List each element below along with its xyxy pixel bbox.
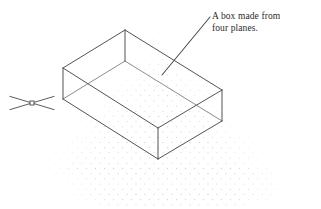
grid-dot xyxy=(194,189,195,190)
grid-dot xyxy=(189,121,190,122)
grid-dot xyxy=(176,157,177,158)
grid-dot xyxy=(104,178,105,179)
grid-dot xyxy=(243,204,244,205)
grid-dot xyxy=(131,74,132,75)
grid-dot xyxy=(72,131,73,132)
grid-dot xyxy=(117,204,118,205)
grid-dot xyxy=(113,137,114,138)
grid-dot xyxy=(140,168,141,169)
grid-dot xyxy=(77,126,78,127)
grid-dot xyxy=(225,194,226,195)
grid-dot xyxy=(176,74,177,75)
grid-dot xyxy=(95,137,96,138)
grid-dot xyxy=(153,59,154,60)
grid-dot xyxy=(54,173,55,174)
grid-dot xyxy=(230,199,231,200)
grid-dot xyxy=(171,48,172,49)
grid-dot xyxy=(270,204,271,205)
grid-dot xyxy=(225,204,226,205)
grid-dot xyxy=(189,194,190,195)
grid-dot xyxy=(198,79,199,80)
grid-dot xyxy=(185,157,186,158)
grid-dot xyxy=(131,157,132,158)
grid-dot xyxy=(149,105,150,106)
grid-dot xyxy=(131,147,132,148)
grid-dot xyxy=(72,194,73,195)
grid-dot xyxy=(216,131,217,132)
grid-dot xyxy=(185,126,186,127)
grid-dot xyxy=(207,152,208,153)
grid-dot xyxy=(104,95,105,96)
grid-dot xyxy=(144,183,145,184)
grid-dot xyxy=(216,183,217,184)
grid-dot xyxy=(144,48,145,49)
grid-dot xyxy=(270,163,271,164)
grid-dot xyxy=(135,163,136,164)
grid-dot xyxy=(149,168,150,169)
grid-dot xyxy=(167,189,168,190)
grid-dot xyxy=(126,111,127,112)
grid-dot xyxy=(171,100,172,101)
grid-dot xyxy=(212,157,213,158)
grid-dot xyxy=(221,168,222,169)
grid-dot xyxy=(207,173,208,174)
grid-dot xyxy=(203,168,204,169)
grid-dot xyxy=(162,69,163,70)
grid-dot xyxy=(176,137,177,138)
grid-dot xyxy=(95,168,96,169)
grid-dot xyxy=(230,116,231,117)
grid-dot xyxy=(140,74,141,75)
grid-dot xyxy=(126,194,127,195)
grid-dot xyxy=(108,163,109,164)
grid-dot xyxy=(131,116,132,117)
grid-dot xyxy=(243,183,244,184)
grid-dot xyxy=(176,85,177,86)
grid-dot xyxy=(131,178,132,179)
grid-dot xyxy=(153,69,154,70)
grid-dot xyxy=(216,111,217,112)
grid-dot xyxy=(95,105,96,106)
grid-dot xyxy=(221,137,222,138)
grid-dot xyxy=(153,121,154,122)
grid-dot xyxy=(135,204,136,205)
annotation-leader-line xyxy=(162,17,210,75)
grid-dot xyxy=(252,152,253,153)
grid-dot xyxy=(203,95,204,96)
grid-dot xyxy=(108,194,109,195)
grid-dot xyxy=(257,168,258,169)
grid-dot xyxy=(279,194,280,195)
grid-dot xyxy=(99,163,100,164)
grid-dot xyxy=(203,116,204,117)
marker-grip-square[interactable] xyxy=(30,101,34,105)
grid-dot xyxy=(108,152,109,153)
grid-dot xyxy=(153,152,154,153)
grid-dot xyxy=(194,74,195,75)
grid-dot xyxy=(266,189,267,190)
grid-dot xyxy=(144,90,145,91)
grid-dot xyxy=(180,111,181,112)
grid-dot xyxy=(50,157,51,158)
grid-dot xyxy=(144,131,145,132)
grid-dot xyxy=(212,199,213,200)
grid-dot xyxy=(198,194,199,195)
grid-dot xyxy=(216,121,217,122)
grid-dot xyxy=(158,43,159,44)
node-point-marker[interactable] xyxy=(10,96,54,109)
grid-dot xyxy=(275,178,276,179)
grid-dot xyxy=(117,142,118,143)
grid-dot xyxy=(149,189,150,190)
grid-dot xyxy=(122,126,123,127)
grid-dot xyxy=(171,183,172,184)
isometric-box-drawing xyxy=(0,0,321,209)
grid-dot xyxy=(122,199,123,200)
grid-dot xyxy=(284,178,285,179)
grid-dot xyxy=(167,168,168,169)
grid-dot xyxy=(221,126,222,127)
grid-dot xyxy=(221,178,222,179)
grid-dot xyxy=(185,137,186,138)
grid-dot xyxy=(113,95,114,96)
grid-dot xyxy=(189,204,190,205)
grid-dot xyxy=(117,121,118,122)
grid-dot xyxy=(252,142,253,143)
grid-dot xyxy=(158,74,159,75)
